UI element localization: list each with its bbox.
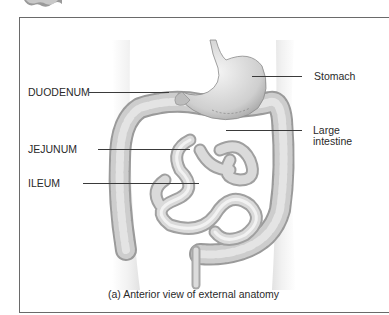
figure-caption: (a) Anterior view of external anatomy bbox=[0, 288, 387, 300]
label-stomach: Stomach bbox=[314, 70, 355, 82]
jejunum-leader-line bbox=[98, 149, 190, 150]
duodenum-leader-line bbox=[89, 92, 169, 93]
label-jejunum: JEJUNUM bbox=[28, 143, 77, 155]
stomach-leader-line bbox=[252, 76, 302, 77]
large-intestine-leader-line bbox=[226, 130, 302, 131]
label-duodenum: DUODENUM bbox=[28, 86, 90, 98]
ileum-leader-line bbox=[83, 183, 199, 184]
label-large-intestine-line2: intestine bbox=[313, 135, 352, 147]
label-ileum: ILEUM bbox=[28, 177, 60, 189]
